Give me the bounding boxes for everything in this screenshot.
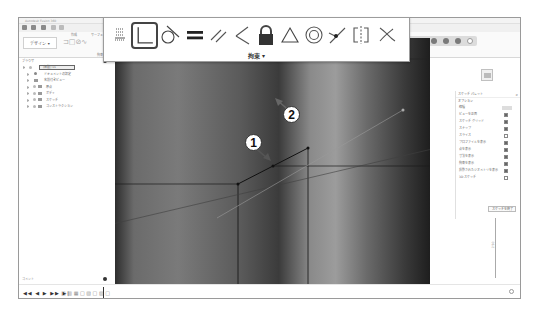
expand-icon[interactable] xyxy=(23,66,25,69)
visibility-icon[interactable] xyxy=(29,66,32,69)
browser-item-construction[interactable]: コンストラクション xyxy=(19,103,111,110)
sketch-grid-checkbox[interactable] xyxy=(504,120,508,124)
sketch-canvas[interactable]: 1 2 ✥·⊕☝⌕·⊡·▦·▥· xyxy=(115,38,430,292)
expand-icon[interactable] xyxy=(27,105,29,108)
row-label: 3D スケッチ xyxy=(459,175,476,179)
close-icon[interactable] xyxy=(467,38,473,44)
visibility-icon[interactable] xyxy=(33,85,36,88)
palette-row-constraints: 拘束を表示 xyxy=(456,160,521,167)
palette-row-dimensions: 寸法を表示 xyxy=(456,153,521,160)
row-label: スライス xyxy=(459,133,471,137)
help-icon[interactable] xyxy=(431,38,437,44)
tangent-icon[interactable] xyxy=(159,24,181,46)
row-label: プロファイルを表示 xyxy=(459,140,486,144)
expand-icon[interactable] xyxy=(27,86,29,89)
folder-icon xyxy=(34,79,38,82)
perpendicular-icon[interactable] xyxy=(131,22,158,49)
callout-1: 1 xyxy=(245,134,262,151)
dimension-value[interactable]: 2.50 xyxy=(491,242,495,249)
palette-row-profile: プロファイルを表示 xyxy=(456,139,521,146)
sketch-palette: スケッチ パレット » オプション 線種 ビューを正面 スケッチ グリッド スナ… xyxy=(455,91,521,219)
constraint-toolbar-zoom: 拘束 ▾ xyxy=(103,17,410,62)
redo-icon[interactable] xyxy=(59,25,64,30)
browser-title: ブラウザ xyxy=(22,59,34,63)
snap-checkbox[interactable] xyxy=(504,127,508,131)
show-dimensions-checkbox[interactable] xyxy=(504,155,508,159)
sketch-palette-header: スケッチ パレット » xyxy=(456,91,521,98)
callout-2: 2 xyxy=(283,106,300,123)
folder-icon xyxy=(38,85,42,88)
midpoint-icon[interactable] xyxy=(326,24,348,46)
expand-icon[interactable] xyxy=(27,92,29,95)
undo-icon[interactable] xyxy=(51,25,56,30)
expand-icon[interactable] xyxy=(27,73,29,76)
viewcube-face[interactable] xyxy=(481,69,493,81)
extensions-icon[interactable] xyxy=(443,38,449,44)
palette-row-look-at: ビューを正面 xyxy=(456,111,521,118)
expand-icon[interactable] xyxy=(27,99,29,102)
palette-row-3d-sketch: 3D スケッチ xyxy=(456,174,521,181)
lock-icon[interactable] xyxy=(255,24,277,46)
folder-icon xyxy=(38,98,42,101)
show-profile-checkbox[interactable] xyxy=(504,141,508,145)
palette-row-linetype: 線種 xyxy=(456,104,521,111)
palette-row-points: 点を表示 xyxy=(456,146,521,153)
timeline: ◀◀ ◀ ▶ ▶▶ ▶| □ ▥ ▦ □ ▧ □ ▨ □ xyxy=(19,284,520,299)
linetype-toggle[interactable] xyxy=(502,106,512,110)
comments-title: コメント xyxy=(22,277,34,281)
file-menu-icon[interactable] xyxy=(31,25,36,30)
symmetry-icon[interactable] xyxy=(350,24,372,46)
viewcube[interactable] xyxy=(477,65,497,85)
row-label: 線種 xyxy=(459,105,465,109)
visibility-icon[interactable] xyxy=(33,105,36,108)
fix-unfix-icon[interactable] xyxy=(109,24,131,46)
concentric-icon[interactable] xyxy=(303,24,325,46)
expand-icon[interactable] xyxy=(27,79,29,82)
row-label: 寸法を表示 xyxy=(459,154,474,158)
coincident-triangle-icon[interactable] xyxy=(279,24,301,46)
grid-menu-icon[interactable] xyxy=(22,25,27,30)
sketch-palette-title: スケッチ パレット xyxy=(458,92,483,96)
collapse-icon[interactable]: » xyxy=(516,91,518,98)
parallel-icon[interactable] xyxy=(208,24,230,46)
pin-icon[interactable] xyxy=(103,277,107,281)
timeline-settings-icon[interactable] xyxy=(509,289,514,294)
create-tools-icons[interactable]: ⊐□⊘∿ xyxy=(63,38,87,46)
3d-sketch-checkbox[interactable] xyxy=(504,176,508,180)
item-label: コンストラクション xyxy=(46,103,73,110)
row-label: スナップ xyxy=(459,126,471,130)
show-constraints-checkbox[interactable] xyxy=(504,162,508,166)
palette-row-projected: 投影されたジオメトリを表示 xyxy=(456,167,521,174)
browser-panel: ブラウザ (無題) v1 ドキュメントの設定 名前付きビュー 原点 xyxy=(19,58,111,278)
palette-row-snap: スナップ xyxy=(456,125,521,132)
row-label: スケッチ グリッド xyxy=(459,119,484,123)
save-icon[interactable] xyxy=(41,25,46,30)
show-projected-checkbox[interactable] xyxy=(504,169,508,173)
curvature-icon[interactable] xyxy=(376,24,398,46)
visibility-icon[interactable] xyxy=(33,98,36,101)
folder-icon xyxy=(38,105,42,108)
constraints-group-label[interactable]: 拘束 ▾ xyxy=(104,51,409,60)
show-points-checkbox[interactable] xyxy=(504,148,508,152)
look-at-checkbox[interactable] xyxy=(504,113,508,117)
timeline-marker[interactable] xyxy=(103,287,106,299)
palette-row-grid: スケッチ グリッド xyxy=(456,118,521,125)
palette-row-slice: スライス xyxy=(456,132,521,139)
row-label: 拘束を表示 xyxy=(459,161,474,165)
slice-checkbox[interactable] xyxy=(504,134,508,138)
workspace-switcher[interactable]: デザイン ▾ xyxy=(23,37,57,49)
perpendicular-alt-icon[interactable] xyxy=(232,24,254,46)
equal-icon[interactable] xyxy=(184,24,206,46)
row-label: ビューを正面 xyxy=(459,112,477,116)
comments-panel[interactable]: コメント xyxy=(19,276,111,282)
folder-icon xyxy=(38,92,42,95)
ribbon-group-create[interactable]: 作成 xyxy=(71,33,77,37)
row-label: 点を表示 xyxy=(459,147,471,151)
profile-icon[interactable] xyxy=(455,38,461,44)
finish-sketch-button[interactable]: スケッチを終了 xyxy=(488,206,516,212)
row-label: 投影されたジオメトリを表示 xyxy=(459,168,498,172)
visibility-icon[interactable] xyxy=(33,92,36,95)
gear-icon xyxy=(34,72,37,75)
sketch-geometry[interactable] xyxy=(115,38,430,292)
